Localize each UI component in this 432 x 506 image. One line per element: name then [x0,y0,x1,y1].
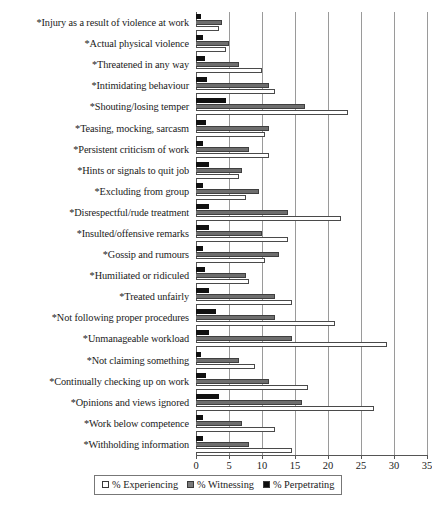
bar-group [196,54,427,75]
bar-group [196,286,427,307]
category-label: *Continually checking up on work [0,371,193,392]
legend-item: % Perpetrating [263,478,334,491]
bar-gap [196,46,427,47]
category-label: *Withholding information [0,434,193,455]
bar-experiencing [196,216,341,221]
bar-gap [196,40,427,41]
category-label: *Teasing, mocking, sarcasm [0,117,193,138]
category-label: *Humiliated or ridiculed [0,265,193,286]
category-label: *Not following proper procedures [0,307,193,328]
legend-label: % Witnessing [197,478,254,491]
bar-group [196,181,427,202]
tick-mark-30 [394,455,395,459]
x-tick-label: 35 [422,460,432,472]
bar-experiencing [196,195,246,200]
category-label: *Actual physical violence [0,33,193,54]
bar-group [196,244,427,265]
bar-experiencing [196,279,249,284]
legend-label: % Perpetrating [273,478,334,491]
x-tick-label: 0 [193,460,198,472]
bar-experiencing [196,47,226,52]
tick-mark-15 [295,455,296,459]
bar-group [196,350,427,371]
bar-experiencing [196,300,292,305]
x-tick-label: 10 [257,460,268,472]
bar-rows [196,12,427,455]
chart-legend: % Experiencing% Witnessing% Perpetrating [94,475,342,495]
category-label: *Gossip and rumours [0,244,193,265]
tick-mark-20 [328,455,329,459]
category-label: *Unmanageable workload [0,328,193,349]
category-label: *Persistent criticism of work [0,139,193,160]
category-labels: *Injury as a result of violence at work*… [0,12,193,455]
tick-mark-5 [229,455,230,459]
bar-group [196,434,427,455]
bar-gap [196,19,427,20]
category-label: *Hints or signals to quit job [0,160,193,181]
x-tick-label: 5 [226,460,231,472]
bar-gap [196,25,427,26]
category-label: *Not claiming something [0,350,193,371]
bar-group [196,75,427,96]
bar-group [196,307,427,328]
bar-experiencing [196,342,387,347]
x-tick-label: 15 [290,460,301,472]
bar-group [196,223,427,244]
bar-group [196,202,427,223]
tick-mark-10 [262,455,263,459]
gridline-35 [427,12,428,455]
bar-experiencing [196,406,374,411]
legend-swatch-witnessing [187,481,194,488]
bar-experiencing [196,427,275,432]
x-tick-label: 25 [356,460,367,472]
bar-experiencing [196,448,292,453]
bar-group [196,12,427,33]
bar-experiencing [196,237,288,242]
category-label: *Treated unfairly [0,286,193,307]
bar-experiencing [196,110,348,115]
bar-group [196,139,427,160]
bar-group [196,371,427,392]
category-label: *Opinions and views ignored [0,392,193,413]
bar-group [196,265,427,286]
category-label: *Excluding from group [0,181,193,202]
bar-group [196,117,427,138]
category-label: *Shouting/losing temper [0,96,193,117]
bar-group [196,392,427,413]
legend-item: % Experiencing [102,478,178,491]
bar-experiencing [196,153,269,158]
bar-group [196,33,427,54]
legend-swatch-perpetrating [263,481,270,488]
category-label: *Intimidating behaviour [0,75,193,96]
bar-experiencing [196,132,265,137]
plot-area [196,12,427,455]
legend-swatch-experiencing [102,481,109,488]
bar-group [196,413,427,434]
legend-label: % Experiencing [112,478,178,491]
x-axis-ticks: 05101520253035 [196,455,427,477]
bar-experiencing [196,26,219,31]
tick-mark-25 [361,455,362,459]
bar-group [196,328,427,349]
bar-experiencing [196,385,308,390]
category-label: *Disrespectful/rude treatment [0,202,193,223]
tick-mark-35 [427,455,428,459]
tick-mark-0 [196,455,197,459]
x-tick-label: 30 [389,460,400,472]
bar-group [196,160,427,181]
bar-group [196,96,427,117]
category-label: *Injury as a result of violence at work [0,12,193,33]
category-label: *Work below competence [0,413,193,434]
x-tick-label: 20 [323,460,334,472]
category-label: *Threatened in any way [0,54,193,75]
bar-experiencing [196,174,239,179]
bar-experiencing [196,89,275,94]
bar-experiencing [196,258,265,263]
legend-item: % Witnessing [187,478,254,491]
category-label: *Insulted/offensive remarks [0,223,193,244]
bar-experiencing [196,68,262,73]
bar-experiencing [196,364,255,369]
bar-experiencing [196,321,335,326]
